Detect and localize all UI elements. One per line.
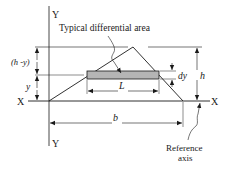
x-axis-left-label: X <box>17 96 25 107</box>
reference-axis-label-line2: axis <box>178 153 193 163</box>
reference-axis-leader <box>188 103 200 140</box>
y-dimension-label: y <box>25 82 31 92</box>
h-minus-y-label: (h -y) <box>11 57 30 67</box>
y-axis-bottom-label: Y <box>52 138 59 149</box>
x-axis-right-label: X <box>211 96 219 107</box>
b-label: b <box>113 112 118 123</box>
L-label: L <box>118 80 125 91</box>
dy-label: dy <box>178 71 188 81</box>
triangle-moment-of-inertia-diagram: Y Y X X Typical differential area (h -y)… <box>0 0 229 172</box>
reference-axis-label-line1: Reference <box>166 143 202 153</box>
differential-area-leader <box>108 36 121 73</box>
differential-strip <box>87 71 159 79</box>
y-axis-top-label: Y <box>52 9 59 20</box>
h-dimension-label: h <box>200 70 205 81</box>
differential-area-label: Typical differential area <box>59 23 151 33</box>
